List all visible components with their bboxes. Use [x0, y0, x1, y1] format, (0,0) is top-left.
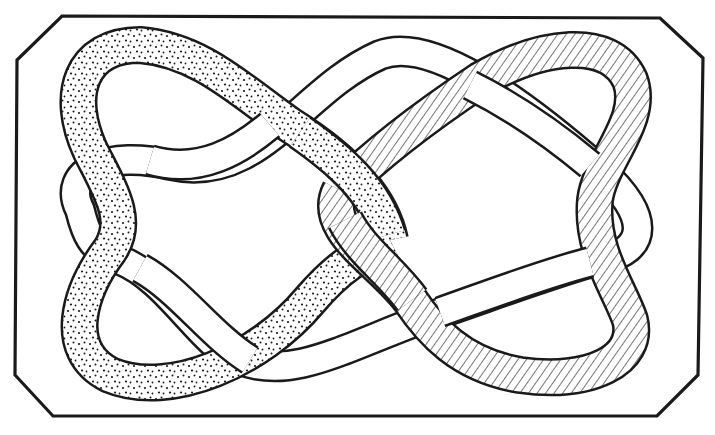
knot-diagram	[0, 0, 715, 435]
